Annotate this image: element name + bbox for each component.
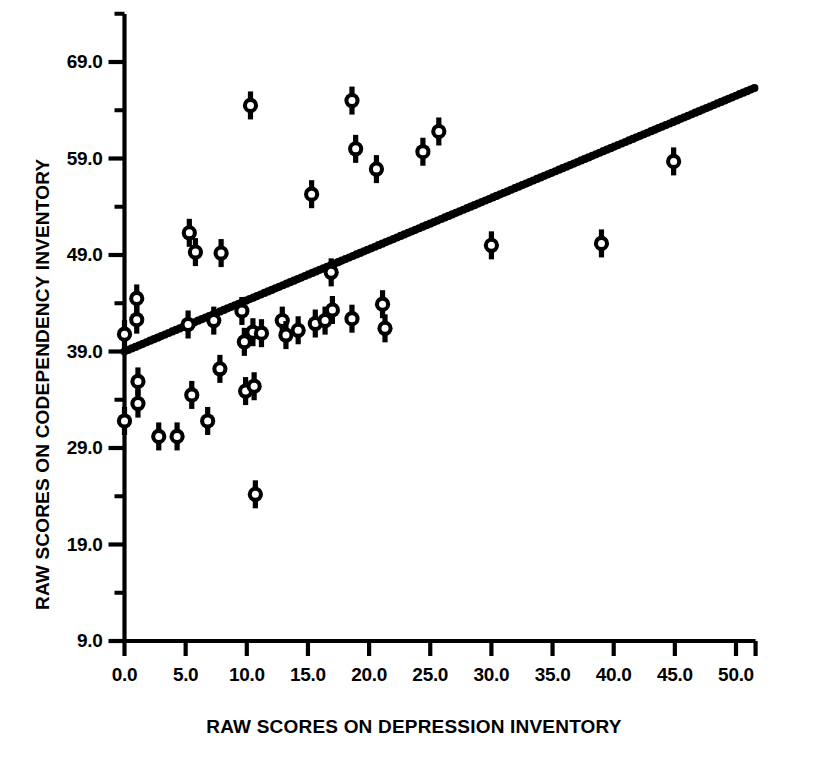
x-tick-label: 45.0	[640, 665, 710, 684]
data-point	[151, 422, 166, 450]
data-point	[212, 355, 227, 383]
y-tick-label: 49.0	[67, 245, 103, 264]
data-point	[129, 306, 144, 334]
data-point	[291, 316, 306, 344]
x-tick-label: 25.0	[395, 665, 465, 684]
y-axis-title: RAW SCORES ON CODEPENDENCY INVENTORY	[32, 159, 54, 610]
data-point	[130, 390, 145, 418]
y-tick-label: 9.0	[77, 631, 103, 650]
data-point	[415, 138, 430, 166]
axes	[109, 14, 756, 656]
x-tick-label: 20.0	[334, 665, 404, 684]
x-tick-label: 10.0	[212, 665, 282, 684]
x-tick-label: 30.0	[456, 665, 526, 684]
data-point	[117, 320, 132, 348]
y-tick-label: 39.0	[67, 342, 103, 361]
data-point	[304, 180, 319, 208]
data-point	[169, 422, 184, 450]
data-point	[344, 87, 359, 115]
x-axis-title: RAW SCORES ON DEPRESSION INVENTORY	[0, 716, 828, 738]
x-tick-label: 15.0	[273, 665, 343, 684]
data-points	[117, 87, 681, 509]
y-tick-label: 69.0	[67, 52, 103, 71]
y-tick-label: 29.0	[67, 438, 103, 457]
y-tick-label: 59.0	[67, 149, 103, 168]
data-point	[348, 135, 363, 163]
data-point	[184, 381, 199, 409]
data-point	[594, 229, 609, 257]
data-point	[117, 407, 132, 435]
x-tick-label: 5.0	[151, 665, 221, 684]
data-point	[200, 407, 215, 435]
x-tick-label: 40.0	[579, 665, 649, 684]
x-tick-label: 50.0	[701, 665, 771, 684]
plot-canvas	[0, 0, 828, 764]
data-point	[214, 239, 229, 267]
x-tick-label: 0.0	[90, 665, 160, 684]
data-point	[254, 319, 269, 347]
data-point	[369, 155, 384, 183]
data-point	[377, 314, 392, 342]
scatter-plot-figure: 9.019.029.039.049.059.069.00.05.010.015.…	[0, 0, 828, 764]
data-point	[243, 91, 258, 119]
data-point	[344, 305, 359, 333]
data-point	[666, 147, 681, 175]
data-point	[484, 231, 499, 259]
data-point	[431, 117, 446, 145]
data-point	[181, 310, 196, 338]
data-point	[375, 290, 390, 318]
y-tick-label: 19.0	[67, 535, 103, 554]
data-point	[248, 480, 263, 508]
x-tick-label: 35.0	[518, 665, 588, 684]
